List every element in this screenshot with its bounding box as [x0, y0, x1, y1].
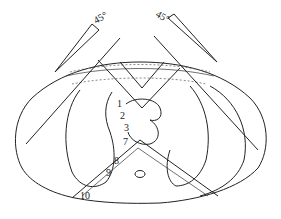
bottom-triangle — [72, 140, 218, 198]
left-angle-label: 45° — [92, 9, 110, 26]
label-7: 7 — [123, 136, 128, 147]
right-inner-contour — [167, 86, 208, 186]
center-circle — [135, 171, 145, 178]
upper-layer-3 — [72, 78, 206, 84]
right-angle-marker — [168, 14, 217, 62]
left-angle-marker — [55, 24, 99, 72]
diamond-right — [120, 62, 164, 88]
label-9: 9 — [106, 167, 111, 178]
label-1: 1 — [117, 98, 122, 109]
cross-section-diagram: 45° 45° 1 2 3 7 8 9 10 — [0, 0, 281, 219]
right-organ-outer — [200, 86, 245, 196]
label-2: 2 — [120, 110, 125, 121]
label-8: 8 — [114, 155, 119, 166]
upper-layer-2 — [66, 69, 214, 77]
label-3: 3 — [124, 122, 129, 133]
bottom-triangle-inner — [82, 148, 208, 196]
right-angle-label: 45° — [154, 8, 172, 25]
label-10: 10 — [80, 190, 90, 201]
right-beam-line — [154, 36, 258, 150]
